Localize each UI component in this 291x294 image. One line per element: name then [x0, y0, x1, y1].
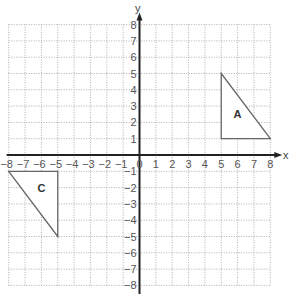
y-axis-label: y	[135, 2, 141, 14]
x-tick-label: 8	[267, 158, 273, 170]
y-tick-label: −4	[124, 214, 137, 226]
triangle-label-c: C	[37, 182, 45, 194]
y-tick-label: 3	[130, 100, 136, 112]
y-tick-label: 6	[130, 51, 136, 63]
axes	[7, 13, 283, 294]
x-tick-label: −6	[33, 158, 46, 170]
x-tick-label: 2	[169, 158, 175, 170]
x-tick-label: −3	[82, 158, 95, 170]
y-tick-label: 7	[130, 35, 136, 47]
x-tick-label: 6	[235, 158, 241, 170]
x-tick-label: 3	[185, 158, 191, 170]
x-tick-label: −2	[99, 158, 112, 170]
triangle-label-a: A	[234, 108, 242, 120]
x-tick-label: −4	[66, 158, 79, 170]
y-tick-label: −5	[124, 231, 137, 243]
x-axis-label: x	[283, 149, 289, 161]
triangle-a	[221, 74, 270, 139]
y-tick-label: −1	[124, 165, 137, 177]
x-tick-label: 0	[136, 158, 142, 170]
y-tick-label: 4	[130, 84, 136, 96]
x-tick-label: 4	[202, 158, 208, 170]
y-tick-label: 2	[130, 116, 136, 128]
y-tick-label: −6	[124, 247, 137, 259]
x-axis-arrow-icon	[274, 152, 282, 158]
x-tick-label: −7	[17, 158, 30, 170]
y-tick-label: −2	[124, 182, 137, 194]
y-tick-label: 1	[130, 133, 136, 145]
y-tick-label: −8	[124, 279, 137, 291]
x-tick-label: 7	[251, 158, 257, 170]
x-tick-label: −5	[49, 158, 62, 170]
y-tick-label: −3	[124, 198, 137, 210]
x-tick-label: −8	[0, 158, 13, 170]
x-tick-label: 5	[218, 158, 224, 170]
y-tick-label: 5	[130, 68, 136, 80]
x-tick-label: 1	[153, 158, 159, 170]
coordinate-plane: AC −8−7−6−5−4−3−2−1012345678−8−7−6−5−4−3…	[0, 0, 291, 294]
triangle-c	[9, 171, 58, 236]
y-tick-label: 8	[130, 19, 136, 31]
y-tick-label: −7	[124, 263, 137, 275]
